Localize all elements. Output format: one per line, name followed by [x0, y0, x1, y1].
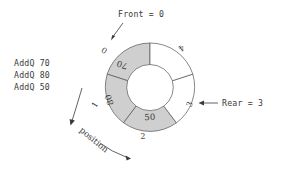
ring-index-4: 4	[177, 43, 186, 53]
operation-line-2: AddQ 50	[14, 82, 50, 92]
ring-slot-4[interactable]	[150, 43, 193, 81]
position-arc-upper	[72, 88, 82, 121]
position-arrow-head-lower-icon	[126, 155, 131, 160]
ring-value-2: 50	[144, 112, 155, 123]
rear-pointer-group: Rear = 3	[199, 98, 264, 108]
position-arrow-head-upper-icon	[70, 119, 75, 126]
rear-arrow-head-icon	[199, 101, 205, 106]
operation-line-1: AddQ 80	[14, 70, 50, 80]
ring-index-2: 2	[140, 132, 145, 141]
operation-line-0: AddQ 70	[14, 58, 50, 68]
operation-list: AddQ 70 AddQ 80 AddQ 50	[14, 58, 50, 92]
position-label: position	[78, 125, 111, 155]
diagram-canvas: 70 80 50 0 1 2 3 4 Front = 0 Rear = 3	[0, 0, 281, 177]
front-pointer-group: Front = 0	[111, 9, 164, 41]
circular-queue-diagram: 70 80 50 0 1 2 3 4 Front = 0 Rear = 3	[0, 0, 281, 177]
front-pointer-label: Front = 0	[118, 9, 164, 19]
front-arrow-head-icon	[111, 35, 115, 41]
ring-index-0: 0	[100, 45, 109, 55]
ring-index-1: 1	[90, 100, 100, 109]
rear-pointer-label: Rear = 3	[222, 98, 263, 108]
